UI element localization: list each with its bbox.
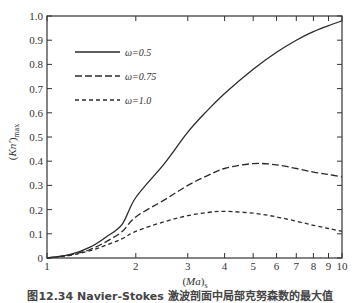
legend-label: ω=0.75 xyxy=(125,71,156,82)
y-tick-label: 0.4 xyxy=(29,155,43,167)
y-tick-label: 0.5 xyxy=(29,131,43,143)
x-tick-label: 2 xyxy=(133,260,139,272)
legend-label: ω=0.5 xyxy=(125,47,151,58)
x-tick-label: 9 xyxy=(326,260,332,272)
x-tick-label: 3 xyxy=(185,260,191,272)
x-tick-label: 1 xyxy=(44,260,50,272)
figure-caption: 图12.34 Navier-Stokes 激波剖面中局部克努森数的最大值 xyxy=(0,287,360,303)
y-axis-label: (Kn')max xyxy=(6,124,21,160)
x-tick-label: 6 xyxy=(274,260,280,272)
y-tick-label: 0.1 xyxy=(29,228,43,240)
series-line-dashed xyxy=(47,163,342,258)
x-tick-label: 7 xyxy=(294,260,300,272)
y-tick-label: 0.3 xyxy=(29,179,43,191)
y-tick-label: 0.9 xyxy=(29,34,43,46)
y-tick-label: 0.8 xyxy=(29,58,43,70)
series-line-solid xyxy=(47,21,342,258)
y-tick-label: 0 xyxy=(38,252,44,264)
x-tick-label: 5 xyxy=(250,260,256,272)
x-tick-label: 8 xyxy=(311,260,317,272)
y-tick-label: 1.0 xyxy=(29,10,43,22)
legend-label: ω=1.0 xyxy=(125,95,151,106)
y-tick-label: 0.2 xyxy=(29,204,43,216)
axis-ticks: 1234567891000.10.20.30.40.50.60.70.80.91… xyxy=(29,10,348,272)
y-tick-label: 0.7 xyxy=(29,83,43,95)
x-tick-label: 4 xyxy=(222,260,228,272)
x-tick-label: 10 xyxy=(337,260,349,272)
y-tick-label: 0.6 xyxy=(29,107,43,119)
legend: ω=0.5ω=0.75ω=1.0 xyxy=(75,47,156,106)
series-line-dotted xyxy=(47,211,342,258)
data-curves xyxy=(47,21,342,258)
